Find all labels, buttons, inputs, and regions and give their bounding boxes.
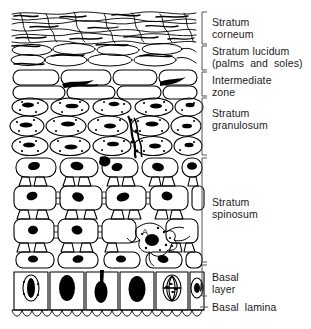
epidermis-diagram: B A Stratum corneum Stratum lucidum (pal… xyxy=(0,0,311,329)
label-stratum-corneum: Stratum corneum xyxy=(212,16,254,41)
label-intermediate-zone: Intermediate zone xyxy=(212,74,272,99)
label-basal-layer: Basal layer xyxy=(212,271,239,296)
label-stratum-spinosum: Stratum spinosum xyxy=(212,196,258,221)
marker-a-glyph: A xyxy=(142,227,148,237)
marker-b-glyph: B xyxy=(114,163,120,173)
label-stratum-granulosum: Stratum granulosum xyxy=(212,107,268,132)
label-basal-lamina: Basal lamina xyxy=(212,301,276,313)
label-stratum-lucidum: Stratum lucidum (palms and soles) xyxy=(212,45,303,70)
